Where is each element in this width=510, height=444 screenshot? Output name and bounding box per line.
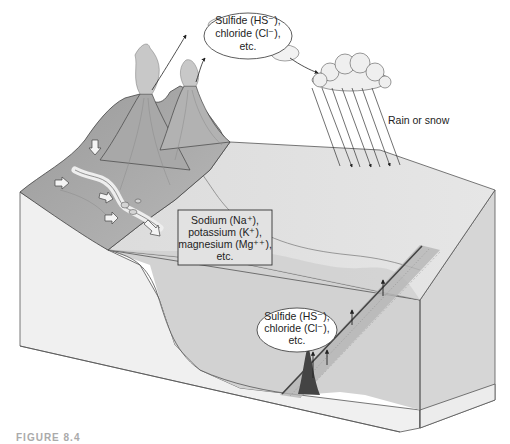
river-ions-line-3: magnesium (Mg⁺⁺), — [178, 238, 272, 250]
precipitation-label: Rain or snow — [388, 114, 450, 126]
atmosphere-ions-line-2: chloride (Cl⁻), — [215, 27, 281, 39]
figure-caption: FIGURE 8.4 — [16, 432, 80, 443]
river-ions-label: Sodium (Na⁺), potassium (K⁺), magnesium … — [178, 210, 272, 265]
river-ions-line-4: etc. — [217, 250, 234, 262]
ocean-salt-sources-diagram: Sulfide (HS⁻), chloride (Cl⁻), etc. Rain… — [0, 0, 510, 444]
vent-ions-line-1: Sulfide (HS⁻), — [264, 310, 330, 322]
vent-ions-line-3: etc. — [289, 334, 306, 346]
atmosphere-ions-label: Sulfide (HS⁻), chloride (Cl⁻), etc. — [204, 13, 292, 59]
vent-ions-label: Sulfide (HS⁻), chloride (Cl⁻), etc. — [257, 308, 337, 352]
atmosphere-ions-line-1: Sulfide (HS⁻), — [215, 14, 281, 26]
river-ions-line-2: potassium (K⁺), — [188, 226, 262, 238]
river-ions-line-1: Sodium (Na⁺), — [191, 214, 259, 226]
rain-cloud — [312, 53, 391, 91]
atmosphere-to-cloud-arrow — [290, 58, 318, 73]
atmosphere-ions-line-3: etc. — [240, 40, 257, 52]
vent-ions-line-2: chloride (Cl⁻), — [264, 322, 330, 334]
